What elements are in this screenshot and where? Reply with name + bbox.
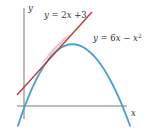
- shaded-area: [40, 34, 71, 66]
- parabola-equation-label: y = 6x − x2: [92, 32, 142, 43]
- chart-plot-area: y x y = 2x +3 y = 6x − x2: [0, 0, 146, 132]
- x-axis-label: x: [131, 108, 136, 118]
- line-2x-plus-3: [17, 12, 92, 95]
- parabola-curve: [18, 44, 131, 126]
- y-axis-label: y: [27, 3, 33, 13]
- line-equation-label: y = 2x +3: [43, 10, 87, 20]
